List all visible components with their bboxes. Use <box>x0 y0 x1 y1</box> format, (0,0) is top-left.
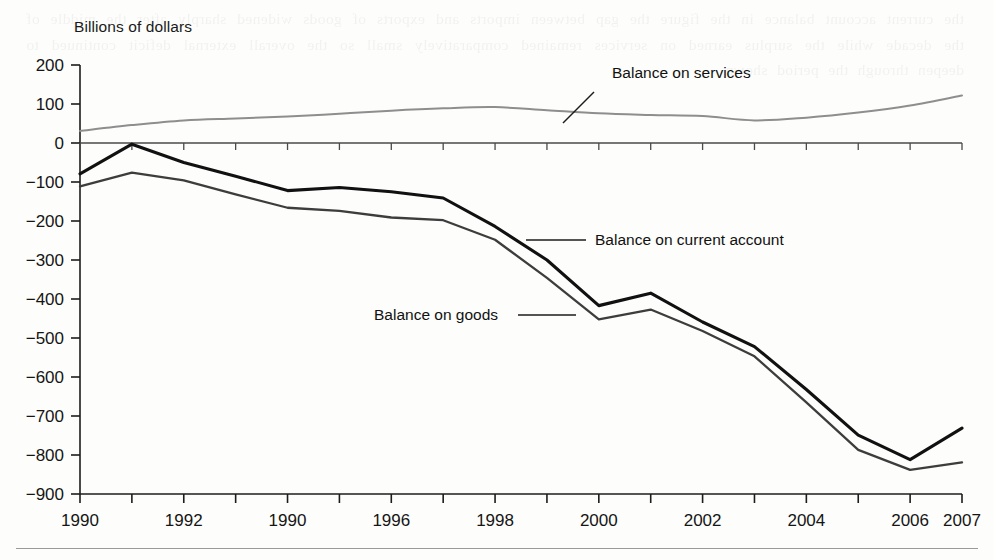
x-axis-tick-label: 2002 <box>684 511 722 530</box>
y-axis-tick-label: −800 <box>26 446 64 465</box>
leader-line-balance-on-services <box>563 92 594 123</box>
series-line-balance-on-services <box>80 95 962 130</box>
y-axis-tick-label: −500 <box>26 329 64 348</box>
y-axis-tick-label: −700 <box>26 407 64 426</box>
series-annotations: Balance on servicesBalance on current ac… <box>374 64 784 323</box>
y-axis-tick-label: 0 <box>55 134 64 153</box>
x-axis-tick-label: 2004 <box>787 511 825 530</box>
x-axis: 1990199219901996199820002002200420062007 <box>61 494 981 530</box>
x-axis-tick-label: 2006 <box>891 511 929 530</box>
zero-reference-line <box>80 143 962 150</box>
data-series-group <box>80 95 962 469</box>
chart-canvas: 2001000−100−200−300−400−500−600−700−800−… <box>0 0 994 560</box>
series-label-balance-on-current-account: Balance on current account <box>595 231 784 248</box>
y-axis-tick-label: 200 <box>36 56 64 75</box>
x-axis-tick-label: 1990 <box>61 511 99 530</box>
y-axis-tick-label: −600 <box>26 368 64 387</box>
y-axis-tick-label: −900 <box>26 485 64 504</box>
y-axis-tick-label: −300 <box>26 251 64 270</box>
y-axis-tick-label: −400 <box>26 290 64 309</box>
x-axis-tick-label: 2007 <box>943 511 981 530</box>
series-label-balance-on-goods: Balance on goods <box>374 306 498 323</box>
series-line-balance-on-goods <box>80 173 962 470</box>
x-axis-tick-label: 1990 <box>269 511 307 530</box>
y-axis-tick-label: 100 <box>36 95 64 114</box>
figure-panel: the current account balance in the figur… <box>0 0 994 560</box>
series-line-balance-on-current-account <box>80 144 962 460</box>
series-label-balance-on-services: Balance on services <box>612 64 751 81</box>
footer-rule <box>16 548 978 549</box>
y-axis: 2001000−100−200−300−400−500−600−700−800−… <box>26 56 80 504</box>
x-axis-tick-label: 1998 <box>476 511 514 530</box>
x-axis-tick-label: 1992 <box>165 511 203 530</box>
y-axis-tick-label: −100 <box>26 173 64 192</box>
y-axis-tick-label: −200 <box>26 212 64 231</box>
x-axis-tick-label: 2000 <box>580 511 618 530</box>
x-axis-tick-label: 1996 <box>372 511 410 530</box>
